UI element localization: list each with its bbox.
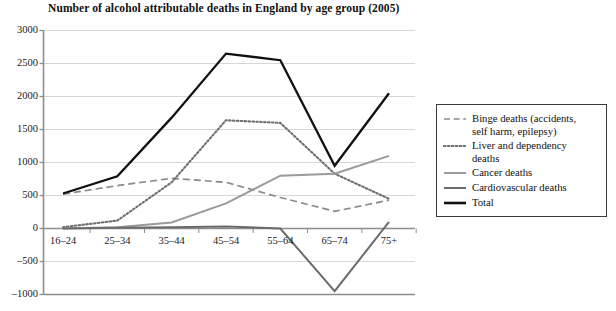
legend-item[interactable]: Liver and dependencydeaths <box>443 139 599 164</box>
x-axis-label: 45–54 <box>213 235 239 246</box>
chart-svg <box>0 0 430 311</box>
x-axis-label: 55–64 <box>267 235 293 246</box>
y-axis-label: 2000 <box>0 90 38 101</box>
series-line-0 <box>63 178 389 211</box>
y-axis <box>40 31 44 295</box>
legend-item[interactable]: Binge deaths (accidents,self harm, epile… <box>443 112 599 137</box>
plot-area: 300025002000150010005000–500–1000 16–242… <box>0 0 430 311</box>
y-axis-label: 500 <box>0 189 38 200</box>
legend-item[interactable]: Cancer deaths <box>443 166 599 179</box>
legend-item-label: Total <box>472 196 494 209</box>
chart-legend: Binge deaths (accidents,self harm, epile… <box>436 104 607 217</box>
legend-item-label: Cardiovascular deaths <box>472 181 567 194</box>
x-axis-label: 75+ <box>381 235 397 246</box>
legend-item-label: Cancer deaths <box>472 166 532 179</box>
legend-item-label: Binge deaths (accidents,self harm, epile… <box>472 112 576 137</box>
legend-item[interactable]: Total <box>443 196 599 209</box>
y-axis-label: –500 <box>0 255 38 266</box>
x-axis-label: 65–74 <box>322 235 348 246</box>
solid-line-light-icon <box>443 166 467 179</box>
dotted-line-icon <box>443 139 467 152</box>
y-axis-label: –1000 <box>0 288 38 299</box>
chart-screenshot: Number of alcohol attributable deaths in… <box>0 0 616 311</box>
x-axis-label: 25–34 <box>104 235 130 246</box>
x-axis-label: 16–24 <box>50 235 76 246</box>
dashed-line-icon <box>443 112 467 125</box>
x-axis-label: 35–44 <box>159 235 185 246</box>
gridlines <box>44 31 416 295</box>
y-axis-label: 1500 <box>0 123 38 134</box>
series-line-1 <box>63 120 389 227</box>
legend-item-label: Liver and dependencydeaths <box>472 139 567 164</box>
solid-line-bold-icon <box>443 196 467 209</box>
y-axis-label: 0 <box>0 222 38 233</box>
series-line-3 <box>63 222 389 291</box>
series-line-2 <box>63 156 389 229</box>
y-axis-label: 1000 <box>0 156 38 167</box>
legend-item[interactable]: Cardiovascular deaths <box>443 181 599 194</box>
y-axis-label: 2500 <box>0 57 38 68</box>
solid-line-medium-icon <box>443 181 467 194</box>
y-axis-label: 3000 <box>0 24 38 35</box>
